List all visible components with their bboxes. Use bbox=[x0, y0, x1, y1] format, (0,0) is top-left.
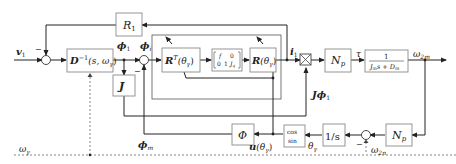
label-cos: cos bbox=[287, 128, 297, 135]
label-d-inverse: D−1(s, ωγ) bbox=[69, 54, 117, 68]
sum-junction-3 bbox=[362, 131, 371, 140]
signal-phi-m: ϕm bbox=[138, 139, 153, 151]
junction-phi1 bbox=[123, 59, 126, 62]
sign-minus-sum1: − bbox=[35, 45, 42, 54]
wire-u-to-rotations bbox=[184, 72, 273, 78]
wire-j-to-multiplier bbox=[124, 68, 306, 116]
label-j: J bbox=[117, 80, 125, 93]
signal-phi-i: ϕi bbox=[140, 40, 151, 52]
wire-omega2m-feedback bbox=[412, 60, 425, 135]
signal-omega2n: ω2n bbox=[371, 145, 386, 156]
junction-u-bottom bbox=[272, 133, 275, 136]
label-r-transpose: RT(θγ) bbox=[164, 54, 194, 68]
sign-minus-sum2: − bbox=[134, 67, 141, 76]
signal-omega-gamma: ωγ bbox=[19, 144, 30, 156]
signal-j-phi1: Jϕ1 bbox=[310, 89, 330, 101]
signal-v1: v1 bbox=[16, 46, 26, 58]
signal-i1: i1 bbox=[290, 46, 298, 58]
block-diagram: R1 D−1(s, ωγ) J RT(θγ) f 0 0 1 Jq R(θγ) … bbox=[0, 0, 456, 164]
sign-minus-sum3: − bbox=[356, 140, 363, 149]
wire-phim-to-sum2 bbox=[144, 65, 232, 134]
signal-omega2m: ω2m bbox=[413, 49, 430, 60]
label-phi-block: Φ bbox=[238, 129, 247, 142]
signal-phi1: ϕ1 bbox=[117, 40, 130, 52]
svg-text:1: 1 bbox=[384, 53, 388, 61]
sum-junction-1 bbox=[42, 56, 51, 65]
param-arrow-rt bbox=[166, 37, 172, 44]
junction-i1 bbox=[286, 59, 289, 62]
svg-text:0: 0 bbox=[217, 60, 221, 67]
svg-text:1: 1 bbox=[224, 60, 228, 67]
signal-theta-gamma: θγ bbox=[308, 141, 317, 153]
junction-u-top bbox=[272, 77, 275, 80]
multiplier-block bbox=[300, 54, 311, 65]
signal-u-theta: u(θγ) bbox=[249, 141, 272, 154]
label-sin: sin bbox=[288, 137, 297, 144]
junction-omega-gamma bbox=[89, 154, 92, 157]
sum-junction-2 bbox=[140, 56, 149, 65]
svg-text:0: 0 bbox=[230, 52, 234, 59]
param-arrow-r bbox=[257, 37, 263, 44]
signal-tau: τ bbox=[356, 49, 362, 59]
label-integrator: 1/s bbox=[325, 131, 340, 142]
